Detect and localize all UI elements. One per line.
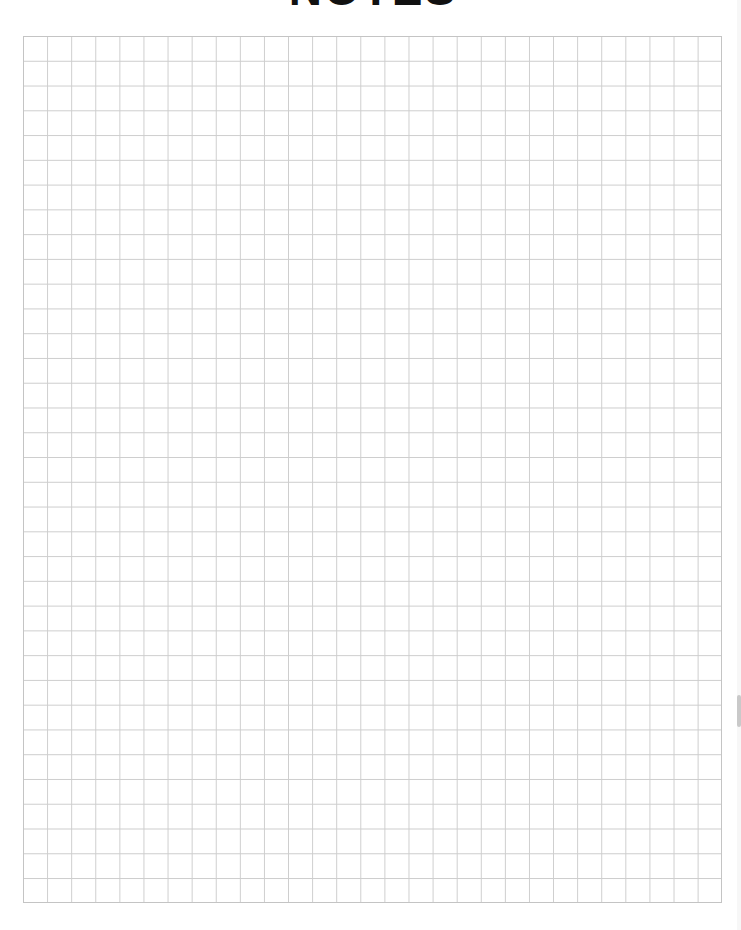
page-title: NOTES	[0, 0, 741, 7]
graph-paper-grid	[23, 36, 722, 903]
scrollbar-thumb[interactable]	[737, 695, 741, 727]
vertical-scrollbar[interactable]	[737, 0, 741, 930]
